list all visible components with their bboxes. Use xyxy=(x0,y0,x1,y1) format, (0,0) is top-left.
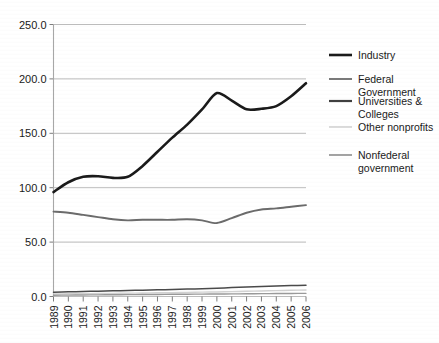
x-axis-labels: 1989199019911992199319941995199619971998… xyxy=(48,305,313,329)
series-line-industry xyxy=(54,83,307,192)
legend-label: Industry xyxy=(358,49,396,61)
y-axis-tick-label: 50.0 xyxy=(25,236,46,248)
x-axis-tick-label: 1989 xyxy=(48,305,60,329)
x-axis-tick-label: 1990 xyxy=(62,305,74,329)
chart-legend: IndustryFederalGovernmentUniversities &C… xyxy=(329,49,433,174)
x-axis-tick-label: 1998 xyxy=(181,305,193,329)
chart-canvas: 0.050.0100.0150.0200.0250.0 198919901991… xyxy=(0,0,439,343)
series-line-federal-government xyxy=(54,205,307,223)
data-series-group xyxy=(54,83,307,295)
x-axis-tick-label: 2001 xyxy=(226,305,238,329)
x-axis-tick-label: 1996 xyxy=(151,305,163,329)
x-axis-tick-label: 1993 xyxy=(107,305,119,329)
x-axis-tick-label: 2006 xyxy=(300,305,312,329)
x-axis-tick-label: 1991 xyxy=(77,305,89,329)
x-axis-tick-label: 2005 xyxy=(285,305,297,329)
legend-label: Nonfederal xyxy=(358,149,409,161)
y-axis-tick-label: 100.0 xyxy=(19,182,47,194)
y-axis-tick-label: 200.0 xyxy=(19,73,47,85)
y-axis-tick-label: 0.0 xyxy=(31,291,46,303)
x-axis-tick-label: 1992 xyxy=(92,305,104,329)
y-axis-labels: 0.050.0100.0150.0200.0250.0 xyxy=(19,19,47,303)
y-axis-tick-label: 250.0 xyxy=(19,19,47,31)
x-axis-tick-label: 2003 xyxy=(255,305,267,329)
x-axis-tick-label: 2002 xyxy=(241,305,253,329)
x-axis-tick-label: 1994 xyxy=(122,305,134,329)
gridlines-group xyxy=(54,25,307,297)
x-axis-tickmarks xyxy=(54,297,307,302)
x-axis-tick-label: 1995 xyxy=(137,305,149,329)
y-axis-tickmarks xyxy=(50,25,54,297)
line-chart: 0.050.0100.0150.0200.0250.0 198919901991… xyxy=(0,0,439,343)
legend-label: government xyxy=(358,162,414,174)
y-axis-tick-label: 150.0 xyxy=(19,127,47,139)
x-axis-tick-label: 1999 xyxy=(196,305,208,329)
legend-label: Colleges xyxy=(358,108,399,120)
x-axis-tick-label: 2000 xyxy=(211,305,223,329)
x-axis-tick-label: 1997 xyxy=(166,305,178,329)
legend-label: Other nonprofits xyxy=(358,121,433,133)
x-axis-tick-label: 2004 xyxy=(270,305,282,329)
legend-label: Federal xyxy=(358,73,394,85)
legend-label: Universities & xyxy=(358,95,422,107)
